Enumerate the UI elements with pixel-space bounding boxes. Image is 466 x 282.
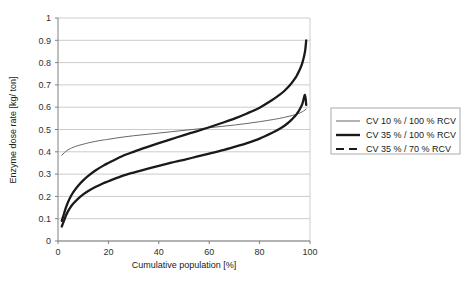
x-tick-label: 100 [302, 247, 317, 257]
chart-svg: 00.10.20.30.40.50.60.70.80.91 0204060801… [0, 0, 466, 282]
y-tick-label: 0.2 [38, 192, 51, 202]
y-tick-label: 0 [46, 236, 51, 246]
y-tick-label: 0.5 [38, 125, 51, 135]
x-axis-title: Cumulative population [%] [132, 260, 237, 270]
legend-item-label: CV 35 % / 100 % RCV [366, 130, 456, 140]
y-tick-label: 0.6 [38, 102, 51, 112]
x-tick-label: 20 [103, 247, 113, 257]
y-axis-title: Enzyme dose rate [kg/ ton] [8, 76, 18, 183]
y-tick-label: 0.1 [38, 214, 51, 224]
x-tick-label: 0 [55, 247, 60, 257]
legend: CV 10 % / 100 % RCVCV 35 % / 100 % RCVCV… [331, 108, 460, 154]
y-tick-label: 0.9 [38, 36, 51, 46]
y-tick-label: 0.3 [38, 169, 51, 179]
x-tick-label: 80 [255, 247, 265, 257]
y-tick-label: 0.8 [38, 58, 51, 68]
legend-item-label: CV 10 % / 100 % RCV [366, 116, 456, 126]
y-tick-label: 1 [46, 13, 51, 23]
y-tick-label: 0.4 [38, 147, 51, 157]
x-tick-label: 60 [204, 247, 214, 257]
legend-item-label: CV 35 % / 70 % RCV [366, 144, 451, 154]
x-tick-label: 40 [154, 247, 164, 257]
y-tick-label: 0.7 [38, 80, 51, 90]
chart-container: 00.10.20.30.40.50.60.70.80.91 0204060801… [0, 0, 466, 282]
